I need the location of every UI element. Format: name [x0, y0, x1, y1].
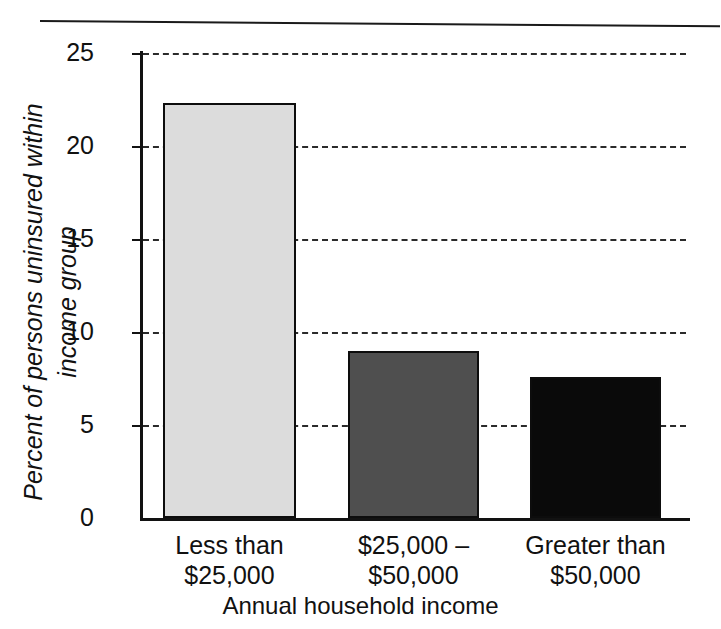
ytick-label-25-text: 25: [66, 40, 94, 65]
y-axis-title-line1: Percent of persons uninsured within: [19, 103, 47, 500]
xtick-label-group-3: Greater than $50,000: [514, 530, 677, 590]
bar-25000-to-50000: [348, 351, 479, 518]
bar-less-than-25000: [163, 103, 296, 518]
xtick-label-group-3-line2: $50,000: [514, 560, 677, 590]
y-axis-line: [140, 51, 143, 520]
xtick-label-group-1-line2: $25,000: [148, 560, 311, 590]
y-axis-title: Percent of persons uninsured within inco…: [16, 92, 84, 512]
xtick-label-group-2-line1: $25,000 –: [358, 531, 469, 559]
x-axis-title: Annual household income: [0, 592, 721, 620]
gridline-25: [143, 53, 686, 55]
xtick-label-group-1-line1: Less than: [175, 531, 283, 559]
xtick-label-group-1: Less than $25,000: [148, 530, 311, 590]
xtick-label-group-3-line1: Greater than: [525, 531, 665, 559]
xtick-label-group-2: $25,000 – $50,000: [332, 530, 495, 590]
bar-greater-than-50000: [530, 377, 661, 518]
xtick-label-group-2-line2: $50,000: [332, 560, 495, 590]
x-axis-line: [140, 518, 690, 521]
chart-figure: 25 20 15 10 5 0 Less than $25,000 $25,0: [0, 0, 721, 629]
plot-area: 25 20 15 10 5 0 Less than $25,000 $25,0: [0, 0, 721, 629]
y-axis-title-line2: income group: [50, 92, 84, 512]
